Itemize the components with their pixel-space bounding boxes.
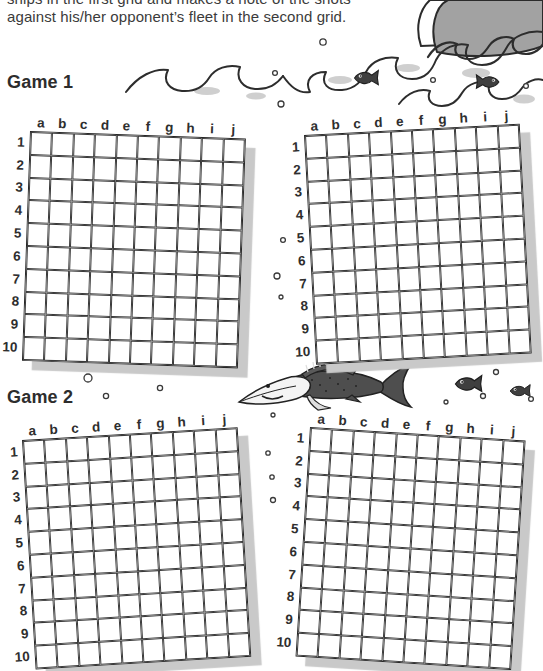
grid-cell [499,148,522,172]
grid-cell [116,135,138,159]
grid-cell [444,333,467,357]
column-label: f [425,418,430,434]
grid-cell [158,137,180,161]
grid-cell [428,595,451,619]
grid-cell [438,219,461,243]
game2-grid-right: abcdefghij 12345678910 [274,408,527,670]
grid-cell [48,224,70,248]
grid-cell [179,160,201,184]
grid-cell [305,496,328,520]
grid-cell [117,571,140,595]
grid-cell [69,247,91,271]
row-label: 2 [293,162,301,177]
grid-cell [221,519,244,543]
grid-cell [418,243,441,267]
grid-cell [71,202,93,226]
column-label: a [28,423,36,439]
battleship-grid [296,427,526,670]
grid-cell [307,180,330,204]
grid-cell [47,269,69,293]
grid-cell [439,242,462,266]
grid-cell [200,161,222,185]
grid-cell [332,248,355,272]
grid-cell [196,298,218,322]
grid-cell [202,566,225,590]
grid-cell [383,615,406,639]
grid-cell [452,551,475,575]
grid-cell [366,546,389,570]
grid-cell [28,200,50,224]
column-label: i [210,121,214,137]
column-label: e [396,114,404,130]
grid-cell [354,246,377,270]
grid-cell [372,455,395,479]
grid-cell [417,220,440,244]
grid-cell [115,548,138,572]
grid-cell [446,642,469,666]
grid-cell [194,343,216,367]
column-label: i [201,413,206,429]
grid-cell [310,428,333,452]
grid-cell [195,452,218,476]
grid-cell [353,224,376,248]
grid-cell [472,575,495,599]
grid-cell [308,451,331,475]
grid-cell [348,499,371,523]
fish-icon [510,385,530,397]
grid-cell [135,181,157,205]
grid-cell [179,545,202,569]
grid-cell [23,440,46,464]
grid-cell [350,178,373,202]
grid-cell [429,573,452,597]
grid-cell [162,614,185,638]
grid-cell [361,637,384,661]
grid-cell [94,134,116,158]
grid-cell [152,319,174,343]
row-label: 5 [14,226,22,241]
row-label: 1 [296,430,304,445]
grid-cell [430,550,453,574]
grid-cell [134,227,156,251]
grid-cell [405,617,428,641]
grid-cell [477,149,500,173]
grid-cell [45,315,67,339]
grid-cell [178,522,201,546]
row-label: 3 [293,476,301,491]
grid-cell [26,485,49,509]
grid-cell [455,506,478,530]
grid-cell [175,476,198,500]
grid-cell [399,290,422,314]
grid-cell [94,550,117,574]
grid-cell [198,229,220,253]
grid-cell [222,162,244,186]
grid-cell [434,151,457,175]
column-label: g [165,120,174,136]
grid-cell [153,455,176,479]
grid-cell [423,334,446,358]
grid-cell [443,310,466,334]
column-label: f [136,417,141,433]
grid-cell [110,295,132,319]
grid-cell [219,253,241,277]
grid-cell [48,247,70,271]
grid-cell [469,621,492,645]
row-label: 9 [10,317,18,332]
grid-cell [335,293,358,317]
grid-cell [380,336,403,360]
grid-cell [388,547,411,571]
grid-cell [501,193,524,217]
grid-cell [386,570,409,594]
grid-cell [185,636,208,660]
grid-cell [492,599,515,623]
grid-cell [90,481,113,505]
grid-cell [155,250,177,274]
grid-cell [94,157,116,181]
grid-cell [369,500,392,524]
column-label: h [177,414,186,430]
grid-cell [448,619,471,643]
grid-cell [78,642,101,666]
row-label: 2 [11,467,19,482]
grid-cell [90,271,112,295]
grid-cell [227,633,250,657]
column-label: i [490,422,495,438]
